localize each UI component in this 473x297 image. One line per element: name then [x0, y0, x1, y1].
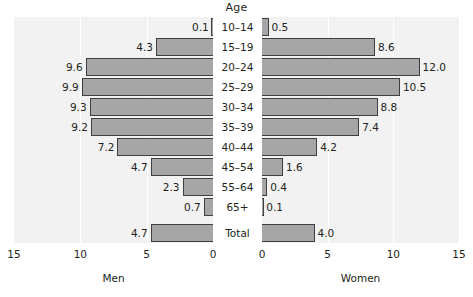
axis-label-women: Women [301, 272, 421, 284]
bar-row-women [262, 177, 459, 197]
value-label-women-65+: 0.1 [266, 197, 283, 217]
value-label-women-35–39: 7.4 [362, 117, 379, 137]
value-label-men-25–29: 9.9 [19, 77, 79, 97]
age-label-Total: Total [213, 223, 262, 243]
value-label-women-15–19: 8.6 [378, 37, 395, 57]
bar-women-25–29[interactable] [262, 78, 400, 96]
bar-women-15–19[interactable] [262, 38, 375, 56]
age-label-45–54: 45–54 [213, 157, 262, 177]
value-label-men-30–34: 9.3 [27, 97, 87, 117]
age-label-20–24: 20–24 [213, 57, 262, 77]
bar-row-women [262, 77, 459, 97]
value-label-men-Total: 4.7 [88, 223, 148, 243]
value-label-women-45–54: 1.6 [286, 157, 303, 177]
bar-row-women [262, 117, 459, 137]
chart-title-age: Age [0, 1, 473, 14]
bar-men-30–34[interactable] [90, 98, 213, 116]
bar-men-Total[interactable] [151, 224, 213, 242]
bar-women-55–64[interactable] [262, 178, 267, 196]
bar-men-25–29[interactable] [82, 78, 213, 96]
plot-panel-women [262, 17, 459, 243]
bar-row-women [262, 17, 459, 37]
bar-women-35–39[interactable] [262, 118, 359, 136]
bar-women-45–54[interactable] [262, 158, 283, 176]
bar-row-women [262, 223, 459, 243]
bar-row-women [262, 137, 459, 157]
bar-women-40–44[interactable] [262, 138, 317, 156]
bar-row-women [262, 97, 459, 117]
xtick-women-0: 0 [250, 248, 274, 260]
value-label-men-40–44: 7.2 [54, 137, 114, 157]
bar-men-35–39[interactable] [91, 118, 213, 136]
bar-men-40–44[interactable] [117, 138, 213, 156]
value-label-women-40–44: 4.2 [320, 137, 337, 157]
xtick-women-15: 15 [447, 248, 471, 260]
value-label-women-30–34: 8.8 [381, 97, 398, 117]
value-label-women-Total: 4.0 [318, 223, 335, 243]
age-label-40–44: 40–44 [213, 137, 262, 157]
age-label-25–29: 25–29 [213, 77, 262, 97]
bar-row-women [262, 37, 459, 57]
age-label-65+: 65+ [213, 197, 262, 217]
value-label-women-10–14: 0.5 [272, 17, 289, 37]
value-label-women-55–64: 0.4 [270, 177, 287, 197]
xtick-women-10: 10 [381, 248, 405, 260]
age-label-30–34: 30–34 [213, 97, 262, 117]
bar-women-30–34[interactable] [262, 98, 378, 116]
value-label-men-35–39: 9.2 [28, 117, 88, 137]
bar-men-20–24[interactable] [86, 58, 213, 76]
xtick-men-15: 15 [2, 248, 26, 260]
xtick-men-0: 0 [201, 248, 225, 260]
age-label-10–14: 10–14 [213, 17, 262, 37]
age-label-15–19: 15–19 [213, 37, 262, 57]
bar-men-65+[interactable] [204, 198, 213, 216]
axis-label-men: Men [54, 272, 174, 284]
xtick-men-5: 5 [135, 248, 159, 260]
bar-men-15–19[interactable] [156, 38, 213, 56]
age-label-35–39: 35–39 [213, 117, 262, 137]
bar-men-45–54[interactable] [151, 158, 213, 176]
bar-men-55–64[interactable] [183, 178, 214, 196]
value-label-women-25–29: 10.5 [403, 77, 426, 97]
value-label-men-10–14: 0.1 [149, 17, 209, 37]
value-label-men-45–54: 4.7 [88, 157, 148, 177]
population-pyramid-chart: Age 10–1415–1920–2425–2930–3435–3940–444… [0, 0, 473, 297]
bar-row-men [14, 177, 213, 197]
bar-women-Total[interactable] [262, 224, 315, 242]
bar-women-10–14[interactable] [262, 18, 269, 36]
value-label-men-55–64: 2.3 [119, 177, 179, 197]
value-label-women-20–24: 12.0 [423, 57, 446, 77]
bar-women-65+[interactable] [262, 198, 264, 216]
age-category-column: 10–1415–1920–2425–2930–3435–3940–4445–54… [213, 17, 262, 243]
xtick-men-10: 10 [68, 248, 92, 260]
xtick-women-5: 5 [316, 248, 340, 260]
value-label-men-20–24: 9.6 [23, 57, 83, 77]
value-label-men-15–19: 4.3 [93, 37, 153, 57]
bar-women-20–24[interactable] [262, 58, 420, 76]
age-label-55–64: 55–64 [213, 177, 262, 197]
bar-row-women [262, 197, 459, 217]
value-label-men-65+: 0.7 [141, 197, 201, 217]
